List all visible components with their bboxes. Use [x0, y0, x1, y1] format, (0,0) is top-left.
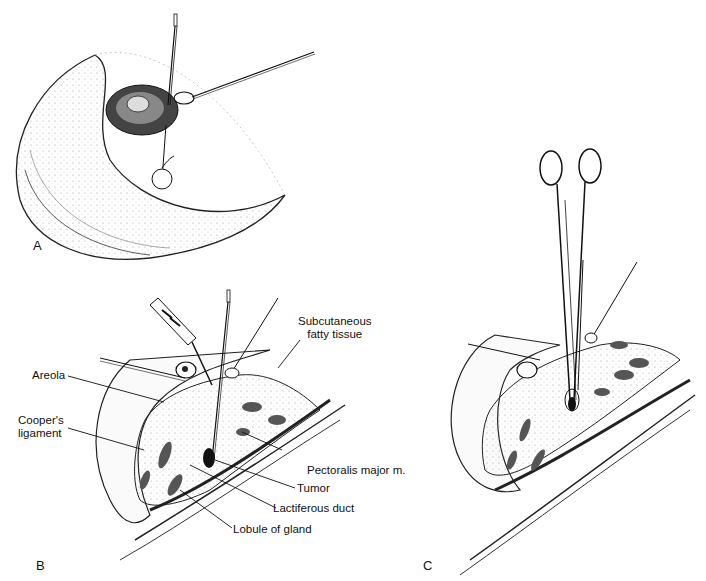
panel-label-c: C — [423, 558, 432, 573]
label-lactiferous-duct: Lactiferous duct — [273, 502, 354, 515]
label-subcutaneous-line2: fatty tissue — [298, 328, 372, 341]
panel-label-a: A — [33, 238, 42, 253]
panel-a-breast — [17, 14, 315, 259]
label-pectoralis-major: Pectoralis major m. — [307, 464, 405, 477]
illustration-canvas — [0, 0, 706, 581]
label-lobule-of-gland: Lobule of gland — [233, 523, 312, 536]
label-coopers-ligament: Cooper's ligament — [18, 414, 64, 440]
label-coopers-line1: Cooper's — [18, 414, 64, 427]
label-areola: Areola — [32, 369, 65, 382]
panel-c-cross-section — [451, 149, 695, 575]
label-subcutaneous-fatty-tissue: Subcutaneous fatty tissue — [298, 315, 372, 341]
panel-label-b: B — [36, 558, 45, 573]
label-tumor: Tumor — [297, 482, 330, 495]
label-subcutaneous-line1: Subcutaneous — [298, 315, 372, 328]
label-coopers-line2: ligament — [18, 427, 64, 440]
